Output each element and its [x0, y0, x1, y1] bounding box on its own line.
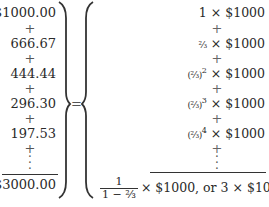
vertical-ellipsis: ···	[211, 154, 223, 172]
plus-sign: +	[210, 82, 224, 96]
vertical-ellipsis: ···	[24, 154, 36, 172]
left-total: $3000.00	[0, 178, 56, 192]
left-term-3: 444.44	[11, 67, 57, 81]
left-term-1: $1000.00	[0, 6, 56, 20]
left-term-4: 296.30	[11, 97, 57, 111]
plus-sign: +	[210, 52, 224, 66]
plus-sign: +	[24, 22, 36, 36]
left-term-2: 666.67	[11, 37, 57, 51]
plus-sign: +	[24, 112, 36, 126]
plus-sign: +	[210, 22, 224, 36]
right-term-2: ⅔ × $1000	[199, 37, 265, 52]
right-term-4: (⅔)3 × $1000	[187, 97, 265, 112]
plus-sign: +	[24, 82, 36, 96]
right-term-5: (⅔)4 × $1000	[187, 127, 265, 142]
right-bracket-icon	[56, 0, 72, 200]
sum-rule	[2, 174, 58, 175]
sum-rule	[150, 172, 266, 173]
left-brace-icon	[80, 0, 96, 200]
left-term-5: 197.53	[11, 127, 57, 141]
right-term-1: 1 × $1000	[199, 6, 265, 20]
plus-sign: +	[210, 112, 224, 126]
right-term-3: (⅔)2 × $1000	[187, 67, 265, 82]
geometric-fraction: 1 1 − ⅔	[100, 176, 138, 201]
plus-sign: +	[24, 52, 36, 66]
right-total: 1 1 − ⅔ × $1000, or 3 × $1000	[100, 176, 269, 201]
